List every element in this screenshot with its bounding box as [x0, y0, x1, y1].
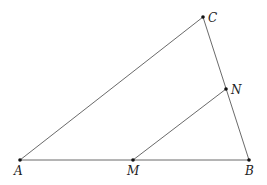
point-N [224, 87, 228, 91]
label-A: A [13, 164, 23, 178]
point-M [131, 158, 135, 162]
segment-MN [133, 89, 226, 160]
triangle-diagram: A B C M N [0, 0, 267, 185]
segment-CA [20, 17, 203, 160]
point-B [247, 158, 251, 162]
label-N: N [230, 83, 242, 97]
point-C [201, 15, 205, 19]
label-M: M [126, 164, 140, 178]
label-C: C [208, 11, 217, 25]
label-B: B [244, 164, 254, 178]
point-A [18, 158, 22, 162]
